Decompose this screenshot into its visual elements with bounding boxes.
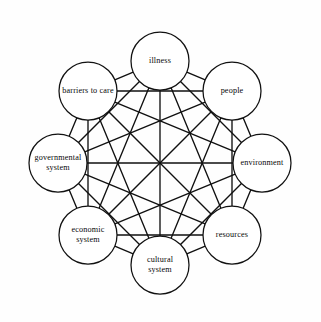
edge-environment-to-resources [243,190,251,208]
node-label-people: people [221,86,244,95]
diagram-canvas: illnesspeopleenvironmentresourcescultura… [0,0,321,322]
node-barriers-to-care[interactable]: barriers to care [59,62,117,120]
edge-illness-to-barriers-to-care [115,72,133,80]
edge-cultural-system-to-economic-system [115,246,133,254]
node-label-cultural-system: culturalsystem [147,255,174,273]
edge-economic-system-to-governmental-system [69,190,77,208]
node-resources[interactable]: resources [203,206,261,264]
node-cultural-system[interactable]: culturalsystem [131,236,189,294]
node-label-barriers-to-care: barriers to care [62,86,114,95]
node-label-economic-system: economicsystem [71,225,104,243]
edge-illness-to-people [187,72,205,80]
edge-resources-to-cultural-system [187,246,205,254]
edge-governmental-system-to-barriers-to-care [69,118,77,136]
node-label-environment: environment [240,158,284,167]
node-economic-system[interactable]: economicsystem [59,206,117,264]
network-graph: illnesspeopleenvironmentresourcescultura… [0,0,321,322]
node-people[interactable]: people [203,62,261,120]
node-governmental-system[interactable]: governmentalsystem [29,134,87,192]
node-label-illness: illness [149,56,171,65]
node-label-resources: resources [216,230,248,239]
node-illness[interactable]: illness [131,32,189,90]
node-environment[interactable]: environment [233,134,291,192]
edge-people-to-environment [243,118,251,136]
